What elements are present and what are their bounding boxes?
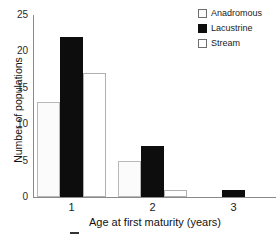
y-tick-label: 20 [2,46,33,56]
bar-stream-2 [164,190,187,197]
x-axis-line [33,197,276,198]
y-tick-label: 0 [2,192,33,202]
y-tick-label: 25 [2,10,33,20]
x-tick-label: 2 [133,201,173,213]
y-axis-line [33,15,34,198]
x-tick-label: 1 [52,201,92,213]
bar-lacustrine-3 [222,190,245,197]
bar-chart: Anadromous Lacustrine Stream Number of p… [0,0,278,240]
plot-area: 0510152025 123 [33,15,276,197]
y-tick-label: 5 [2,156,33,166]
y-tick-label: 15 [2,83,33,93]
stray-mark [70,232,79,234]
bar-anadromous-2 [118,161,141,197]
bar-lacustrine-2 [141,146,164,197]
x-axis-title: Age at first maturity (years) [40,216,270,228]
bar-lacustrine-1 [60,37,83,197]
y-tick-label: 10 [2,119,33,129]
bar-stream-1 [83,73,106,197]
x-tick-label: 3 [214,201,254,213]
bar-anadromous-1 [37,102,60,197]
